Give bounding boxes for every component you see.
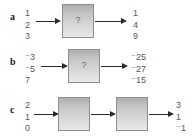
output-arrow-c (149, 110, 175, 119)
input-arrow-c (34, 110, 59, 119)
function-machine-a-1[interactable]: ? (62, 4, 94, 38)
input-arrow-b (41, 62, 68, 71)
output-value: 9 (133, 31, 138, 43)
machine-row-a: a 1 2 3 ? 1 4 9 (0, 0, 193, 44)
input-value: 2 (25, 100, 30, 112)
row-label-a: a (10, 12, 15, 22)
output-arrow-b (101, 62, 129, 71)
machine-row-c: c 2 1 0 3 1 ⁻1 (0, 90, 193, 138)
output-values-b: ⁻25 ⁻27 ⁻15 (131, 52, 146, 87)
function-machine-c-1[interactable] (58, 97, 90, 131)
output-value: 3 (176, 100, 186, 112)
input-value: 1 (25, 112, 30, 124)
machine-label: ? (81, 61, 86, 70)
input-value: ⁻5 (25, 64, 35, 76)
function-machine-c-2[interactable] (116, 97, 148, 131)
input-value: 1 (25, 8, 30, 20)
output-value: ⁻27 (131, 64, 146, 76)
input-value: ⁻3 (25, 52, 35, 64)
output-value: 1 (176, 112, 186, 124)
input-values-c: 2 1 0 (25, 100, 30, 135)
output-value: 1 (133, 8, 138, 20)
row-label-c: c (10, 105, 14, 115)
input-value: 7 (25, 75, 35, 87)
function-machine-b-1[interactable]: ? (68, 49, 100, 83)
input-values-b: ⁻3 ⁻5 7 (25, 52, 35, 87)
input-values-a: 1 2 3 (25, 8, 30, 43)
output-value: ⁻1 (176, 123, 186, 135)
figure-canvas: a 1 2 3 ? 1 4 9 b ⁻3 ⁻5 7 (0, 0, 193, 138)
output-values-c: 3 1 ⁻1 (176, 100, 186, 135)
input-value: 2 (25, 20, 30, 32)
machine-label: ? (75, 16, 80, 25)
output-arrow-a (95, 17, 128, 26)
input-arrow-a (36, 17, 61, 26)
input-value: 3 (25, 31, 30, 43)
output-value: 4 (133, 20, 138, 32)
row-label-b: b (10, 57, 16, 67)
machine-row-b: b ⁻3 ⁻5 7 ? ⁻25 ⁻27 ⁻15 (0, 44, 193, 90)
middle-arrow-c (91, 110, 117, 119)
output-values-a: 1 4 9 (133, 8, 138, 43)
output-value: ⁻25 (131, 52, 146, 64)
input-value: 0 (25, 123, 30, 135)
output-value: ⁻15 (131, 75, 146, 87)
